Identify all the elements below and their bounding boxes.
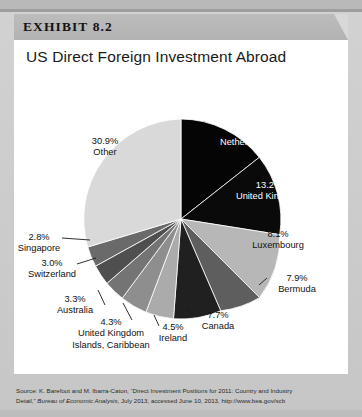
slice-label-other: 30.9% Other [62,136,148,159]
slice-name-bermuda: Bermuda [258,284,336,295]
slice-value-switzerland: 3.0% [19,258,85,269]
slice-value-united-kingdom: 13.2% [214,180,324,191]
source-line-2-post: , July 2013, accessed June 10, 2013, htt… [118,397,286,404]
slice-value-luxembourg: 8.1% [232,229,324,240]
pie-chart: 14.3% The Netherlands 13.2% United Kingd… [14,62,348,372]
slice-name-the-netherlands-line1: The [199,125,291,136]
slice-label-united-kingdom: 13.2% United Kingdom [214,180,324,203]
source-citation: Source: K. Barefoot and M. Ibarra-Caton,… [16,386,352,405]
exhibit-header-band: EXHIBIT 8.2 [14,14,348,40]
page-top-strip [0,0,362,12]
slice-label-the-netherlands: 14.3% The Netherlands [199,114,291,148]
slice-label-luxembourg: 8.1% Luxembourg [232,229,324,252]
slice-label-bermuda: 7.9% Bermuda [258,273,336,296]
slice-value-uk-islands: 4.3% [59,317,163,328]
slice-name-united-kingdom: United Kingdom [214,191,324,202]
slice-name-other: Other [62,147,148,158]
exhibit-number-label: EXHIBIT 8.2 [23,19,113,35]
source-publication-name: Bureau of Economic Analysis [37,397,117,404]
source-line-2-pre: Detail,” [16,397,37,404]
slice-name-australia: Australia [45,305,105,316]
chart-card: US Direct Foreign Investment Abroad [14,40,348,374]
slice-label-switzerland: 3.0% Switzerland [19,258,85,281]
slice-name-luxembourg: Luxembourg [232,240,324,251]
slice-name-uk-islands-line2: Islands, Caribbean [59,340,163,351]
slice-value-australia: 3.3% [45,294,105,305]
slice-value-the-netherlands: 14.3% [199,114,291,125]
slice-label-singapore: 2.8% Singapore [8,232,70,255]
slice-label-australia: 3.3% Australia [45,294,105,317]
slice-value-singapore: 2.8% [8,232,70,243]
source-line-2: Detail,” Bureau of Economic Analysis, Ju… [16,396,352,406]
slice-label-united-kingdom-islands-caribbean: 4.3% United Kingdom Islands, Caribbean [59,317,163,351]
band-corner-decoration [334,14,348,40]
slice-name-singapore: Singapore [8,243,70,254]
page-bottom-strip [0,410,362,417]
slice-name-switzerland: Switzerland [19,269,85,280]
slice-value-canada: 7.7% [187,310,249,321]
slice-value-other: 30.9% [62,136,148,147]
slice-name-uk-islands-line1: United Kingdom [59,328,163,339]
exhibit-page: EXHIBIT 8.2 US Direct Foreign Investment… [0,0,362,417]
slice-name-the-netherlands-line2: Netherlands [199,137,291,148]
source-line-1: Source: K. Barefoot and M. Ibarra-Caton,… [16,386,352,396]
slice-value-bermuda: 7.9% [258,273,336,284]
